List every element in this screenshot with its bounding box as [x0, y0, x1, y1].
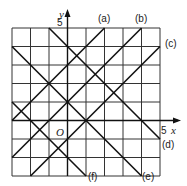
line-label-f: (f) [88, 171, 97, 182]
line-b [12, 28, 142, 158]
line-e [12, 47, 142, 177]
line-c [31, 47, 161, 177]
y-arrow-icon [65, 9, 71, 17]
x-tick-5: 5 [161, 125, 167, 136]
x-axis-label: x [170, 124, 176, 136]
line-label-e: (e) [142, 171, 154, 182]
y-tick-5: 5 [57, 17, 63, 28]
grid [12, 28, 160, 176]
line-graph-diagram: y 5 5 x O (a) (b) (c) (d) (e) (f) [0, 0, 187, 186]
origin-label: O [56, 126, 64, 138]
line-label-c: (c) [165, 38, 177, 49]
line-label-a: (a) [98, 13, 110, 24]
axes [12, 9, 181, 176]
x-arrow-icon [173, 118, 181, 124]
line-a [12, 28, 105, 121]
line-label-b: (b) [135, 13, 147, 24]
line-label-d: (d) [162, 139, 174, 150]
